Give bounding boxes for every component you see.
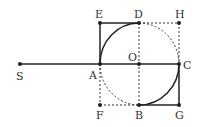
point-H: [177, 21, 181, 25]
label-O: O: [128, 51, 137, 64]
label-G: G: [175, 109, 184, 122]
point-E: [98, 21, 102, 25]
label-C: C: [183, 59, 191, 72]
label-D: D: [134, 8, 143, 21]
point-A: [98, 62, 102, 66]
label-E: E: [95, 8, 103, 21]
arc-BC: [139, 64, 179, 105]
point-G: [177, 103, 181, 107]
label-A: A: [88, 69, 98, 82]
point-S: [18, 62, 22, 66]
label-B: B: [135, 109, 143, 122]
geometry-diagram: S A O C E D H F B G: [0, 0, 201, 127]
arc-DC-dashed: [139, 23, 179, 64]
arc-AB-dashed: [100, 64, 139, 105]
point-B: [137, 103, 141, 107]
label-F: F: [96, 109, 104, 122]
point-D: [137, 21, 141, 25]
label-H: H: [175, 8, 185, 21]
point-F: [98, 103, 102, 107]
label-S: S: [16, 70, 24, 83]
point-O: [137, 62, 141, 66]
point-C: [177, 62, 181, 66]
